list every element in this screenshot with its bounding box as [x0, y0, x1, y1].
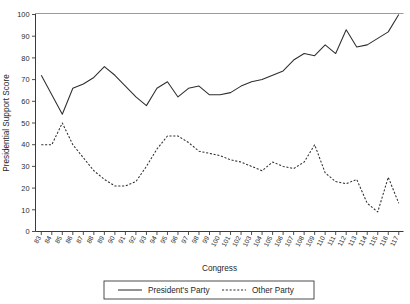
x-tick-label: 103	[241, 234, 253, 247]
x-tick-label: 100	[210, 234, 222, 247]
y-axis: 0102030405060708090100	[17, 10, 35, 236]
x-tick-label: 116	[378, 234, 389, 247]
y-tick-label: 70	[21, 75, 29, 84]
chart-container: 0102030405060708090100 83848586878889909…	[0, 0, 410, 304]
x-tick-label: 115	[368, 234, 379, 247]
data-series-group	[41, 15, 398, 212]
x-tick-label: 98	[190, 234, 200, 244]
x-tick-label: 99	[201, 234, 211, 244]
y-tick-label: 90	[21, 32, 29, 41]
x-tick-label: 96	[169, 234, 179, 244]
x-tick-label: 113	[346, 234, 357, 247]
x-axis: 8384858687888990919293949596979899100101…	[33, 232, 400, 248]
x-tick-label: 101	[220, 234, 232, 247]
x-tick-label: 85	[54, 234, 64, 244]
x-tick-label: 110	[315, 234, 326, 247]
x-tick-label: 107	[283, 234, 295, 247]
x-tick-label: 105	[262, 234, 274, 247]
legend-label-presidents-party: President's Party	[148, 286, 211, 295]
x-tick-label: 83	[33, 234, 43, 244]
x-tick-label: 86	[64, 234, 74, 244]
x-tick-label: 111	[326, 234, 337, 246]
x-tick-label: 94	[148, 234, 158, 244]
x-tick-label: 93	[138, 234, 148, 244]
y-axis-title: Presidential Support Score	[2, 74, 11, 172]
series-line-other-party	[41, 123, 398, 212]
x-tick-label: 112	[336, 234, 347, 247]
y-tick-label: 10	[21, 206, 29, 215]
line-chart: 0102030405060708090100 83848586878889909…	[0, 0, 410, 304]
x-axis-title: Congress	[202, 264, 237, 273]
x-tick-label: 91	[117, 234, 127, 244]
y-tick-label: 0	[25, 227, 29, 236]
y-tick-label: 60	[21, 97, 29, 106]
x-tick-label: 89	[96, 234, 106, 244]
x-tick-label: 104	[252, 234, 264, 247]
y-tick-label: 40	[21, 140, 29, 149]
x-tick-label: 102	[231, 234, 243, 247]
series-line-presidents-party	[41, 15, 398, 115]
x-tick-label: 88	[85, 234, 95, 244]
y-tick-label: 80	[21, 54, 29, 63]
x-tick-label: 87	[75, 234, 85, 244]
x-tick-label: 92	[127, 234, 137, 244]
x-tick-label: 95	[159, 234, 169, 244]
chart-legend: President's PartyOther Party	[104, 281, 314, 299]
x-tick-label: 109	[304, 234, 316, 247]
x-tick-label: 106	[273, 234, 285, 247]
y-tick-label: 50	[21, 119, 29, 128]
y-tick-label: 100	[17, 10, 29, 19]
x-tick-label: 108	[294, 234, 306, 247]
x-tick-label: 117	[389, 234, 400, 247]
x-tick-label: 97	[180, 234, 190, 244]
x-tick-label: 114	[357, 234, 368, 247]
plot-frame	[36, 14, 404, 232]
y-tick-label: 20	[21, 184, 29, 193]
x-tick-label: 84	[43, 234, 53, 244]
legend-label-other-party: Other Party	[252, 286, 295, 295]
x-tick-label: 90	[106, 234, 116, 244]
y-tick-label: 30	[21, 162, 29, 171]
